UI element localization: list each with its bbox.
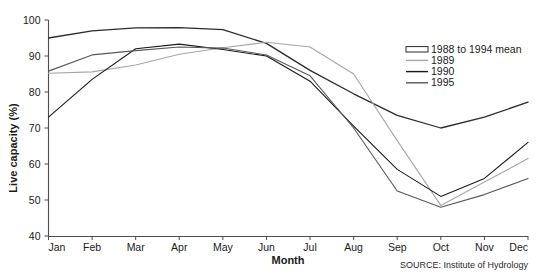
live-capacity-line-chart: 100908070605040 JanFebMarAprMayJunJulAug…: [0, 0, 555, 278]
legend-label: 1988 to 1994 mean: [431, 43, 522, 55]
series-line: [49, 47, 529, 207]
y-tick-label: 60: [29, 158, 41, 170]
x-tick-label: Aug: [344, 241, 363, 253]
x-tick-label: May: [213, 241, 234, 253]
y-tick-label: 70: [29, 122, 41, 134]
chart-canvas: 100908070605040 JanFebMarAprMayJunJulAug…: [0, 0, 555, 278]
x-tick-label: Jul: [303, 241, 316, 253]
x-tick-label-group: JanFebMarAprMayJunJulAugSepOctNovDec: [49, 241, 529, 253]
x-tick-label: Dec: [509, 241, 528, 253]
y-tick-label: 50: [29, 194, 41, 206]
x-tick-label: Mar: [127, 241, 146, 253]
y-tick-label: 40: [29, 230, 41, 242]
y-tick-label: 80: [29, 86, 41, 98]
x-axis-title: Month: [272, 254, 305, 266]
legend: 1988 to 1994 mean198919901995: [406, 43, 522, 89]
y-tick-label-group: 100908070605040: [23, 14, 41, 242]
legend-swatch: [406, 47, 428, 52]
y-axis: 100908070605040: [23, 14, 49, 242]
x-tick-label: Jan: [49, 241, 66, 253]
legend-label: 1989: [431, 54, 455, 66]
legend-label: 1990: [431, 65, 455, 77]
x-tick-label: Oct: [433, 241, 449, 253]
legend-label: 1995: [431, 76, 455, 88]
y-tick-label: 100: [23, 14, 41, 26]
source-caption: SOURCE: Institute of Hydrology: [400, 260, 529, 270]
x-tick-label: Sep: [388, 241, 407, 253]
x-tick-label: Feb: [83, 241, 101, 253]
x-axis: JanFebMarAprMayJunJulAugSepOctNovDec: [49, 236, 529, 253]
y-tick-group: [45, 20, 49, 236]
x-tick-label: Apr: [171, 241, 188, 253]
x-tick-label: Jun: [258, 241, 275, 253]
y-axis-title: Live capacity (%): [7, 103, 19, 193]
y-tick-label: 90: [29, 50, 41, 62]
x-tick-label: Nov: [475, 241, 494, 253]
